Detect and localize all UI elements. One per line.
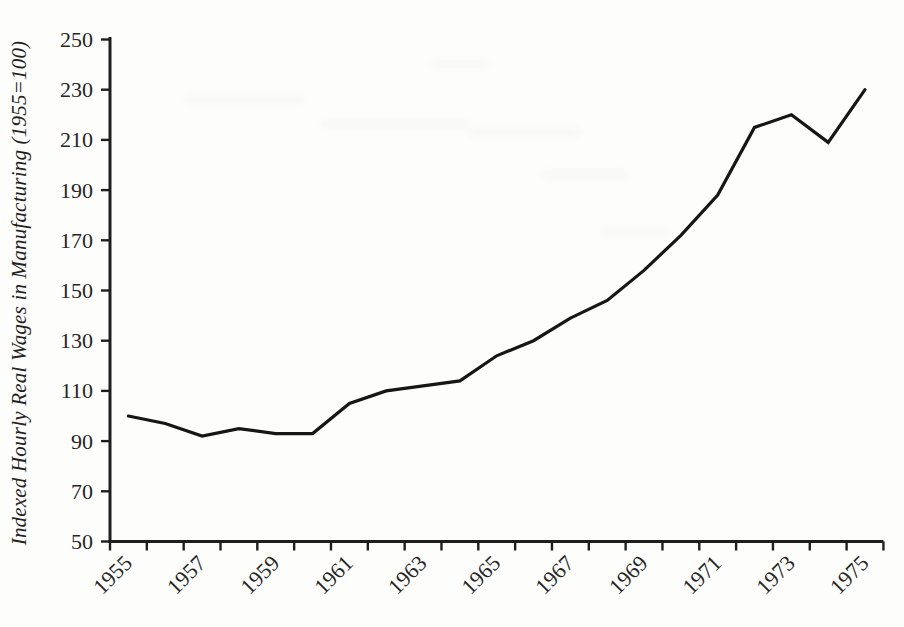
x-tick-label: 1975 xyxy=(825,550,874,599)
chart-figure: Indexed Hourly Real Wages in Manufacturi… xyxy=(0,0,904,627)
y-axis-title: Indexed Hourly Real Wages in Manufacturi… xyxy=(7,23,35,563)
x-tick-label: 1965 xyxy=(456,550,505,599)
scan-smudge xyxy=(470,128,580,137)
y-tick-label: 230 xyxy=(60,77,93,102)
x-tick-label: 1963 xyxy=(383,550,432,599)
x-tick-label: 1957 xyxy=(162,550,211,599)
x-tick-label: 1961 xyxy=(309,550,358,599)
y-tick-label: 170 xyxy=(60,228,93,253)
y-tick-label: 210 xyxy=(60,127,93,152)
x-tick-label: 1973 xyxy=(751,550,800,599)
y-tick-label: 190 xyxy=(60,178,93,203)
scan-smudge xyxy=(185,95,305,104)
scan-smudge xyxy=(600,228,670,236)
x-tick-label: 1967 xyxy=(530,550,579,599)
x-tick-label: 1969 xyxy=(604,550,653,599)
scan-smudge xyxy=(320,120,470,128)
y-tick-label: 90 xyxy=(71,429,93,454)
y-tick-label: 150 xyxy=(60,278,93,303)
x-tick-label: 1959 xyxy=(235,550,284,599)
y-tick-label: 130 xyxy=(60,328,93,353)
y-tick-label: 70 xyxy=(71,479,93,504)
y-tick-label: 250 xyxy=(60,27,93,52)
wage-line-chart: 5070901101301501701902102302501955195719… xyxy=(0,0,904,627)
x-tick-label: 1971 xyxy=(677,550,726,599)
scan-smudge xyxy=(540,170,630,178)
wage-series-line xyxy=(128,90,865,436)
x-tick-label: 1955 xyxy=(88,550,137,599)
y-tick-label: 50 xyxy=(71,529,93,554)
scan-smudge xyxy=(430,60,490,68)
y-tick-label: 110 xyxy=(61,378,93,403)
